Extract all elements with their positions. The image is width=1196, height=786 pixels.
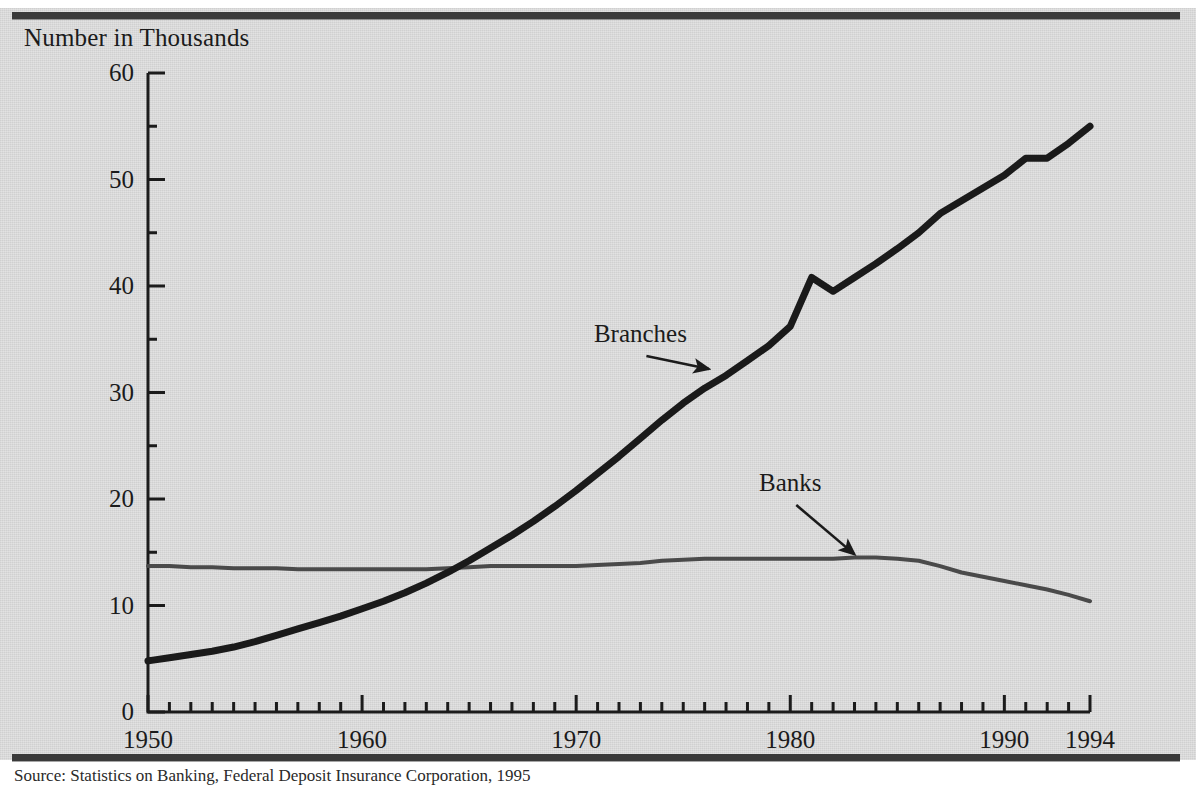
source-note: Source: Statistics on Banking, Federal D… — [14, 766, 531, 786]
x-tick-label: 1980 — [765, 726, 815, 754]
y-tick-label: 30 — [109, 379, 134, 407]
y-tick-label: 60 — [109, 59, 134, 87]
series-line-banks — [148, 558, 1090, 602]
y-tick-label: 0 — [122, 698, 135, 726]
y-tick-label: 50 — [109, 166, 134, 194]
x-tick-label: 1970 — [551, 726, 601, 754]
x-tick-label: 1960 — [337, 726, 387, 754]
x-tick-label: 1950 — [123, 726, 173, 754]
series-line-branches — [148, 126, 1090, 661]
series-label-banks: Banks — [759, 469, 822, 497]
annotation-arrows — [646, 356, 854, 554]
x-axis-ticks — [148, 695, 1090, 712]
x-tick-label: 1990 — [979, 726, 1029, 754]
y-axis-ticks — [148, 73, 165, 712]
y-tick-label: 10 — [109, 592, 134, 620]
y-tick-label: 20 — [109, 485, 134, 513]
y-tick-label: 40 — [109, 272, 134, 300]
series-label-branches: Branches — [594, 320, 687, 348]
axis-lines — [148, 73, 1090, 712]
x-tick-label: 1994 — [1065, 726, 1115, 754]
